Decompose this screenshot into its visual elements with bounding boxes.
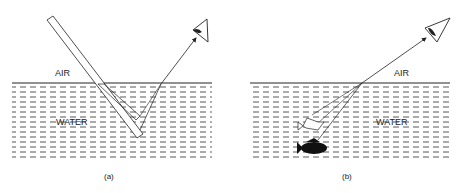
ray-to-eye [161, 38, 196, 84]
eye-icon [425, 18, 450, 42]
refraction-diagram: AIR WATER (a) AIR WATER (b) [0, 0, 464, 193]
air-label: AIR [394, 68, 410, 78]
air-label: AIR [55, 68, 71, 78]
caption-a: (a) [104, 172, 114, 181]
water-label: WATER [376, 117, 408, 127]
water-region [250, 84, 450, 158]
panel-b: AIR WATER (b) [250, 18, 450, 181]
panel-a: AIR WATER (a) [12, 16, 212, 181]
water-label: WATER [56, 117, 88, 127]
caption-b: (b) [342, 172, 352, 181]
